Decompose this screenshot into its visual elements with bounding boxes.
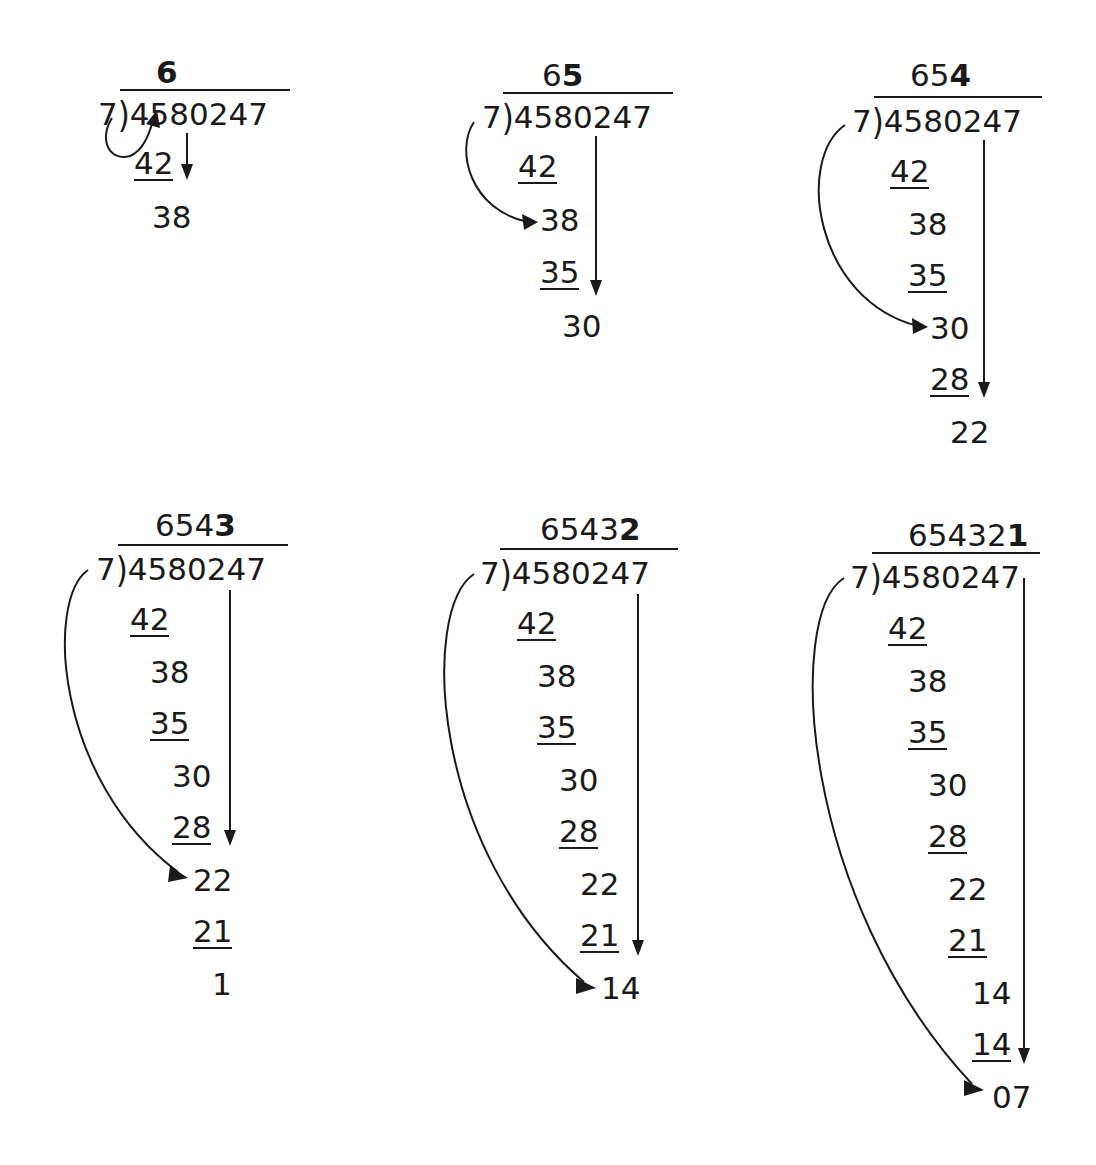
- work-row: 14: [972, 976, 1011, 1010]
- quotient-new-digit: 1: [1007, 517, 1029, 553]
- division-panel-step-6: 654321 7)4580247 42 38 35 30 28 22 21 14…: [0, 0, 1096, 1165]
- work-row: 07: [992, 1080, 1031, 1114]
- work-row: 38: [908, 664, 947, 698]
- divisor-dividend: 7)4580247: [850, 560, 1020, 594]
- work-row: 14: [972, 1028, 1011, 1062]
- quotient-prefix: 65432: [908, 517, 1007, 553]
- divisor: 7: [850, 559, 870, 595]
- dividend: 4580247: [882, 559, 1020, 595]
- quotient: 654321: [908, 518, 1028, 552]
- work-row: 22: [948, 872, 987, 906]
- work-row: 42: [888, 612, 927, 646]
- work-row: 30: [928, 768, 967, 802]
- work-row: 21: [948, 924, 987, 958]
- division-bracket: ): [870, 557, 882, 596]
- work-row: 35: [908, 716, 947, 750]
- division-bar: [872, 552, 1040, 554]
- work-row: 28: [928, 820, 967, 854]
